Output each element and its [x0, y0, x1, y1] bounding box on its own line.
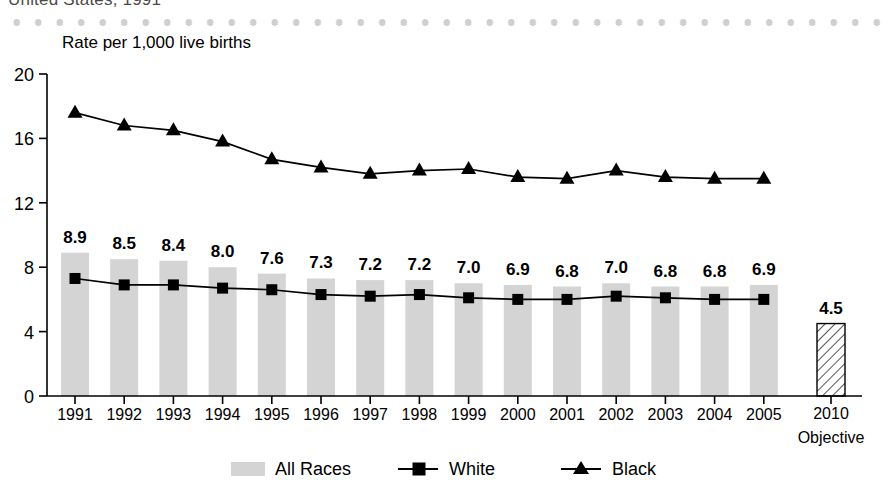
objective-tick-label: 2010	[813, 405, 849, 422]
chart-plot-area: 4.52010Objective 048121620 1991199219931…	[0, 0, 895, 494]
bar-value-label: 7.3	[309, 253, 333, 272]
marker-square	[512, 294, 523, 305]
x-tick-label: 1991	[57, 406, 93, 423]
marker-square	[365, 291, 376, 302]
marker-square	[611, 291, 622, 302]
bar-value-label: 7.0	[604, 258, 628, 277]
x-tick-label: 2004	[697, 406, 733, 423]
marker-square	[119, 279, 130, 290]
series-black	[68, 105, 772, 184]
x-tick-label: 1996	[303, 406, 339, 423]
bar-value-label: 6.9	[752, 260, 776, 279]
legend-label-all-races: All Races	[275, 459, 351, 479]
marker-square	[709, 294, 720, 305]
y-tick-label: 4	[24, 323, 34, 343]
legend-swatch-all-races	[231, 462, 265, 476]
legend-label-white: White	[449, 459, 495, 479]
marker-triangle	[707, 171, 722, 184]
marker-square	[758, 294, 769, 305]
x-tick-label: 1997	[352, 406, 388, 423]
chart-legend: All RacesWhiteBlack	[231, 459, 657, 479]
bar-value-label: 6.8	[703, 262, 727, 281]
bar-value-label: 7.6	[260, 249, 284, 268]
x-tick-label: 2003	[648, 406, 684, 423]
bar-value-label: 6.9	[506, 260, 530, 279]
objective-value-label: 4.5	[819, 299, 843, 318]
bar-value-label: 6.8	[654, 262, 678, 281]
bar-value-label: 8.5	[112, 234, 136, 253]
x-tick-label: 2005	[746, 406, 782, 423]
legend-marker-square-white	[413, 463, 426, 476]
marker-triangle	[68, 105, 83, 118]
marker-triangle	[166, 122, 181, 135]
y-tick-label: 0	[24, 387, 34, 407]
marker-square	[316, 289, 327, 300]
y-tick-label: 8	[24, 258, 34, 278]
x-tick-label: 1993	[156, 406, 192, 423]
bar-value-label: 6.8	[555, 262, 579, 281]
marker-square	[414, 289, 425, 300]
bar-value-label: 7.2	[408, 255, 432, 274]
marker-square	[217, 283, 228, 294]
y-tick-label: 16	[14, 129, 34, 149]
objective-sub-label: Objective	[798, 429, 865, 446]
legend-label-black: Black	[612, 459, 657, 479]
marker-square	[70, 273, 81, 284]
marker-square	[168, 279, 179, 290]
legend-marker-triangle-black	[573, 461, 589, 474]
x-tick-label: 1998	[402, 406, 438, 423]
x-tick-label: 1992	[106, 406, 142, 423]
bar-value-label: 8.4	[162, 236, 186, 255]
marker-triangle	[412, 163, 427, 176]
x-axis-ticks: 1991199219931994199519961997199819992000…	[57, 396, 831, 423]
x-tick-label: 2002	[598, 406, 634, 423]
x-tick-label: 1994	[205, 406, 241, 423]
bar-value-label: 7.0	[457, 258, 481, 277]
x-tick-label: 2000	[500, 406, 536, 423]
x-tick-label: 1999	[451, 406, 487, 423]
objective-bar-group: 4.52010Objective	[798, 299, 865, 446]
objective-bar	[817, 324, 845, 396]
y-tick-label: 12	[14, 194, 34, 214]
marker-triangle	[461, 161, 476, 174]
chart-figure: United States, 1991 Rate per 1,000 live …	[0, 0, 895, 494]
marker-triangle	[756, 171, 771, 184]
marker-square	[463, 292, 474, 303]
y-axis-ticks: 048121620	[14, 65, 47, 407]
marker-square	[266, 284, 277, 295]
x-tick-label: 2001	[549, 406, 585, 423]
bar-value-label: 7.2	[358, 255, 382, 274]
marker-triangle	[609, 163, 624, 176]
marker-square	[660, 292, 671, 303]
x-tick-label: 1995	[254, 406, 290, 423]
y-tick-label: 20	[14, 65, 34, 85]
bar-value-label: 8.9	[63, 228, 87, 247]
marker-square	[562, 294, 573, 305]
bar-value-label: 8.0	[211, 242, 235, 261]
